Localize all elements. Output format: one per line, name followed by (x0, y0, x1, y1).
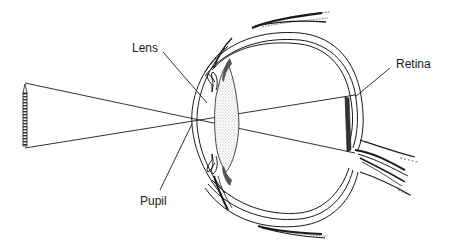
lens (215, 64, 239, 172)
upper-muscle (252, 12, 330, 28)
retina-label: Retina (396, 57, 431, 71)
object-pencil (23, 84, 27, 146)
optic-nerve (355, 140, 418, 196)
eye-illustration (0, 0, 464, 247)
light-rays (25, 83, 355, 153)
eye-diagram: Lens Pupil Retina (0, 0, 464, 247)
lower-muscle (258, 226, 328, 238)
lens-label: Lens (132, 41, 158, 55)
retina (345, 97, 351, 152)
pupil-label: Pupil (140, 194, 167, 208)
